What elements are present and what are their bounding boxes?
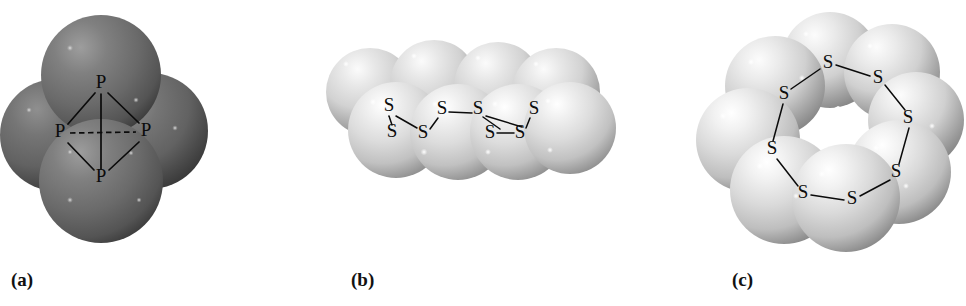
specular-highlight	[133, 97, 139, 103]
ring-center-hole	[823, 106, 857, 138]
specular-highlight	[136, 197, 141, 202]
specular-highlight	[67, 149, 72, 154]
atom-s-1: S	[384, 94, 395, 115]
specular-highlight	[485, 149, 491, 155]
specular-highlight	[370, 99, 376, 105]
specular-highlight	[533, 61, 539, 67]
atom-s-8: S	[779, 82, 790, 103]
specular-highlight	[903, 183, 909, 189]
specular-highlight	[492, 101, 498, 107]
specular-highlight	[547, 147, 553, 153]
atom-s-2: S	[387, 120, 398, 141]
atom-s-2: S	[873, 66, 884, 87]
atom-s-7: S	[515, 121, 526, 142]
atom-s-4: S	[437, 97, 448, 118]
figure-container: P P P P (a)	[0, 0, 966, 306]
atom-s-4: S	[891, 160, 902, 181]
atom-s-6: S	[485, 121, 496, 142]
atom-s-3: S	[418, 121, 429, 142]
specular-highlight	[545, 98, 551, 104]
atom-s-5: S	[847, 187, 858, 208]
bond-s-4-5	[449, 112, 472, 113]
specular-highlight	[929, 123, 935, 129]
atom-p-bottom: P	[96, 165, 107, 186]
s8-top-model-svg: S S S S S S S S	[644, 0, 966, 306]
panel-a-p4: P P P P (a)	[0, 0, 322, 306]
atom-s-1: S	[823, 51, 834, 72]
panel-caption-b: (b)	[351, 270, 374, 289]
atom-s-7: S	[767, 137, 778, 158]
specular-highlight	[873, 145, 879, 151]
atom-s-8: S	[529, 97, 540, 118]
specular-highlight	[720, 113, 727, 120]
p4-sphere-group	[0, 15, 208, 243]
atom-p-left: P	[55, 120, 66, 141]
specular-highlight	[803, 31, 809, 37]
s8-side-model-svg: S S S S S S S S	[322, 0, 644, 306]
specular-highlight	[819, 171, 826, 178]
sphere-s-front-4	[524, 82, 616, 174]
atom-s-6: S	[798, 181, 809, 202]
panel-caption-c: (c)	[732, 270, 753, 289]
specular-highlight	[411, 53, 417, 59]
specular-highlight	[421, 149, 428, 156]
specular-highlight	[67, 197, 73, 203]
specular-highlight	[343, 61, 349, 67]
specular-highlight	[67, 45, 73, 51]
specular-highlight	[26, 107, 32, 113]
specular-highlight	[757, 163, 764, 170]
panel-c-s8-top: S S S S S S S S (c)	[644, 0, 966, 306]
panel-b-s8-side: S S S S S S S S (b)	[322, 0, 644, 306]
specular-highlight	[475, 55, 481, 61]
p4-model-svg: P P P P	[0, 0, 322, 306]
specular-highlight	[172, 125, 178, 131]
atom-s-5: S	[473, 97, 484, 118]
atom-p-top: P	[96, 71, 107, 92]
panel-caption-a: (a)	[11, 270, 33, 289]
atom-p-right: P	[141, 119, 152, 140]
specular-highlight	[748, 59, 754, 65]
atom-s-3: S	[903, 106, 914, 127]
specular-highlight	[867, 43, 873, 49]
